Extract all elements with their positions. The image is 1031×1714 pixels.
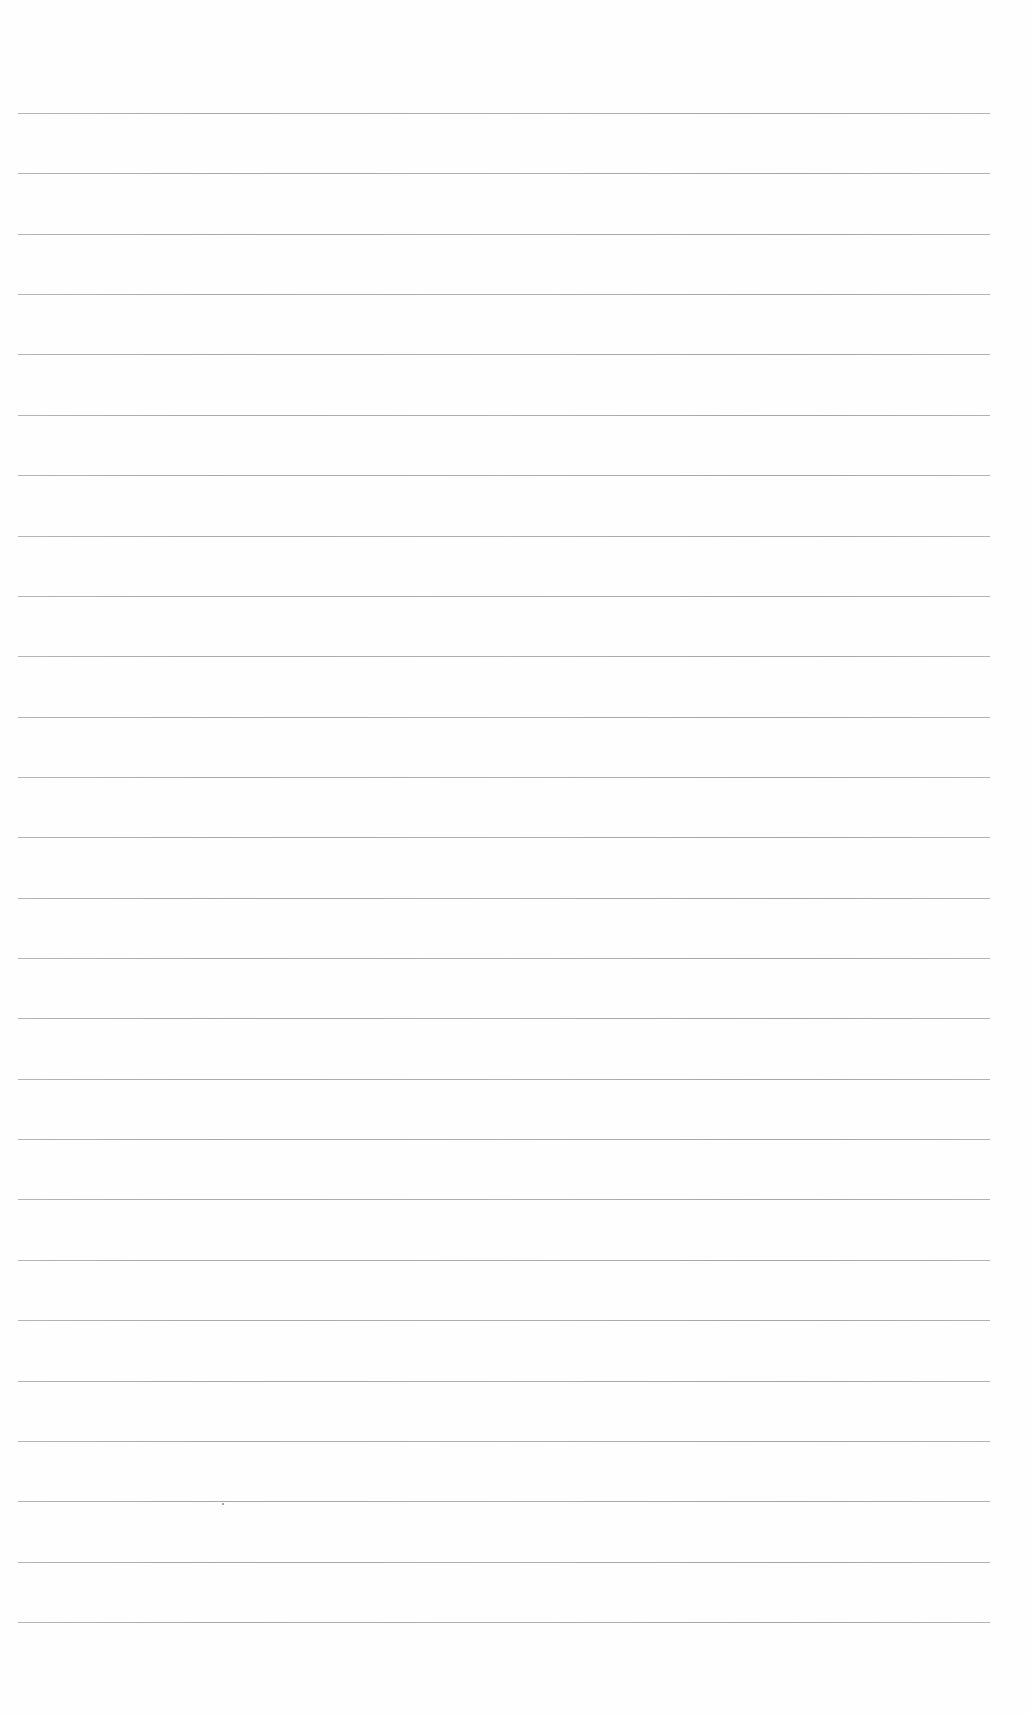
- ruled-line: [18, 1199, 990, 1200]
- ruled-line: [18, 1381, 990, 1382]
- ruled-line: [18, 354, 990, 355]
- ruled-line: [18, 1441, 990, 1442]
- ruled-line: [18, 294, 990, 295]
- ruled-line: [18, 596, 990, 597]
- ruled-line: [18, 173, 990, 174]
- ruled-line: [18, 837, 990, 838]
- ruled-line: [18, 1320, 990, 1321]
- ruled-line: [18, 1260, 990, 1261]
- ruled-paper-sheet: [0, 0, 1031, 1714]
- ruled-line: [18, 717, 990, 718]
- ruled-line: [18, 958, 990, 959]
- paper-speck: [222, 1503, 224, 1505]
- ruled-line: [18, 536, 990, 537]
- ruled-line: [18, 234, 990, 235]
- ruled-line: [18, 656, 990, 657]
- ruled-line: [18, 1079, 990, 1080]
- ruled-line: [18, 113, 990, 114]
- ruled-line: [18, 1018, 990, 1019]
- ruled-line: [18, 1501, 990, 1502]
- ruled-line: [18, 1622, 990, 1623]
- ruled-line: [18, 1562, 990, 1563]
- ruled-line: [18, 475, 990, 476]
- ruled-line: [18, 1139, 990, 1140]
- ruled-line: [18, 898, 990, 899]
- ruled-line: [18, 777, 990, 778]
- ruled-line: [18, 415, 990, 416]
